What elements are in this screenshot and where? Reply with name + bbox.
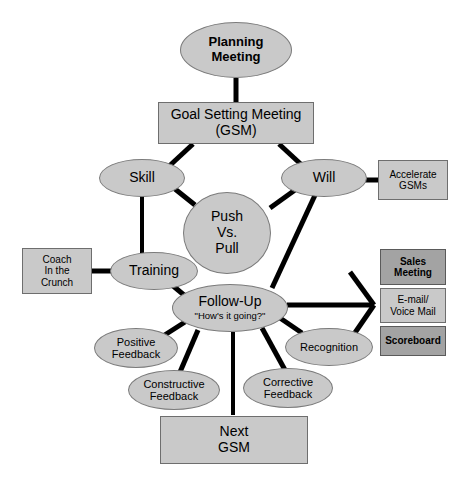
- node-accelerate-gsms-label: Accelerate GSMs: [389, 169, 436, 191]
- node-training-label: Training: [129, 263, 179, 279]
- node-push-vs-pull[interactable]: Push Vs. Pull: [183, 192, 271, 274]
- node-positive-feedback-label: Positive Feedback: [112, 336, 160, 361]
- node-corrective-feedback-label: Corrective Feedback: [263, 376, 313, 401]
- node-constructive-feedback[interactable]: Constructive Feedback: [128, 370, 220, 410]
- edge-skill-to-push-pull: [175, 189, 195, 205]
- node-will-label: Will: [313, 170, 336, 186]
- edge-follow-up-to-corrective-feedback: [262, 328, 285, 370]
- edge-will-to-push-pull: [270, 190, 295, 208]
- node-training[interactable]: Training: [110, 252, 198, 290]
- node-constructive-feedback-label: Constructive Feedback: [143, 378, 204, 403]
- node-will[interactable]: Will: [281, 159, 367, 197]
- edge-follow-up-to-constructive-feedback: [180, 330, 198, 372]
- node-planning-meeting[interactable]: Planning Meeting: [180, 22, 292, 78]
- node-follow-up-sublabel: "How's it going?": [195, 311, 266, 322]
- node-coach-in-the-crunch[interactable]: Coach In the Crunch: [22, 248, 92, 294]
- edge-fork-to-sales-meeting: [350, 272, 374, 305]
- node-email-voice-mail[interactable]: E-mail/ Voice Mail: [380, 288, 446, 323]
- node-scoreboard[interactable]: Scoreboard: [380, 326, 446, 356]
- node-follow-up[interactable]: Follow-Up "How's it going?": [172, 284, 288, 332]
- edge-will-to-follow-up: [272, 193, 316, 288]
- node-goal-setting-meeting-label: Goal Setting Meeting (GSM): [171, 107, 302, 138]
- node-skill-label: Skill: [129, 170, 155, 186]
- node-planning-meeting-label: Planning Meeting: [209, 35, 264, 64]
- node-next-gsm-label: Next GSM: [218, 424, 250, 455]
- node-next-gsm[interactable]: Next GSM: [160, 416, 308, 464]
- edge-follow-up-to-recognition: [280, 318, 302, 333]
- node-scoreboard-label: Scoreboard: [385, 335, 441, 346]
- node-email-voice-mail-label: E-mail/ Voice Mail: [390, 294, 436, 316]
- node-goal-setting-meeting[interactable]: Goal Setting Meeting (GSM): [158, 102, 314, 144]
- node-accelerate-gsms[interactable]: Accelerate GSMs: [378, 160, 448, 200]
- node-sales-meeting-label: Sales Meeting: [394, 256, 432, 278]
- node-recognition[interactable]: Recognition: [285, 328, 373, 366]
- node-corrective-feedback[interactable]: Corrective Feedback: [243, 368, 333, 408]
- node-positive-feedback[interactable]: Positive Feedback: [94, 328, 178, 368]
- node-follow-up-label: Follow-Up: [198, 294, 261, 310]
- node-push-vs-pull-label: Push Vs. Pull: [211, 209, 243, 256]
- node-coach-in-the-crunch-label: Coach In the Crunch: [41, 254, 73, 288]
- node-recognition-label: Recognition: [300, 341, 358, 353]
- diagram-canvas: Planning Meeting Goal Setting Meeting (G…: [0, 0, 460, 478]
- node-skill[interactable]: Skill: [99, 159, 185, 197]
- node-sales-meeting[interactable]: Sales Meeting: [380, 249, 446, 285]
